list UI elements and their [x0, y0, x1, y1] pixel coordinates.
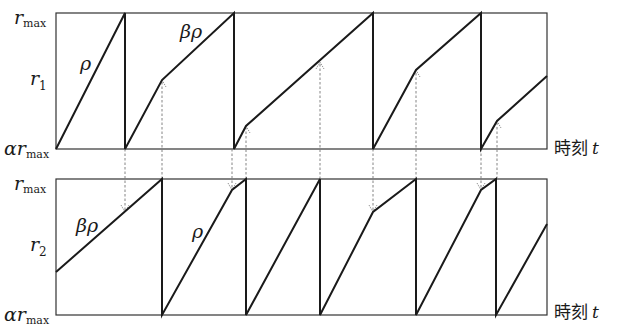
top-panel-frame: [56, 13, 547, 149]
bottom-alpha-rmax-label: αrmax: [4, 303, 50, 327]
arrow-heads: [121, 62, 501, 212]
top-alpha-rmax-label: αrmax: [4, 137, 50, 161]
bottom-rmax-label: rmax: [14, 172, 47, 196]
top-time-label: 時刻t: [554, 138, 599, 158]
top-rho-label: ρ: [79, 52, 92, 74]
bottom-rho-label: ρ: [191, 220, 204, 242]
top-r1-label: r1: [30, 67, 47, 93]
top-sawtooth-line: [56, 13, 547, 149]
bottom-panel-frame: [56, 179, 547, 315]
top-beta-rho-label: βρ: [179, 20, 203, 42]
bottom-r2-label: r2: [30, 233, 47, 259]
bottom-time-label: 時刻t: [554, 302, 599, 322]
bottom-beta-rho-label: βρ: [75, 214, 99, 236]
dashed-connectors: [125, 64, 497, 210]
sawtooth-diagram: rmax r1 αrmax ρ βρ 時刻t rmax r2 αrmax βρ …: [0, 0, 618, 333]
top-rmax-label: rmax: [14, 6, 47, 30]
bottom-sawtooth-line: [56, 179, 547, 315]
